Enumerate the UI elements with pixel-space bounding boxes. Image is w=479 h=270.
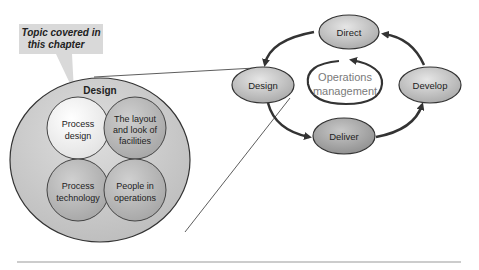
svg-text:technology: technology bbox=[56, 193, 100, 203]
svg-text:The layout: The layout bbox=[114, 114, 157, 124]
arrow-design-to-deliver bbox=[268, 103, 309, 137]
design-detail-title: Design bbox=[83, 85, 116, 96]
quadrant-layout-facilities: The layout and look of facilities bbox=[104, 97, 166, 159]
arrow-develop-to-direct bbox=[384, 34, 424, 65]
design-detail-circle: Design Process design The layout and loo… bbox=[10, 78, 190, 242]
svg-text:Deliver: Deliver bbox=[329, 131, 359, 142]
quadrant-people-operations: People in operations bbox=[104, 159, 166, 221]
zoom-connector-top bbox=[94, 68, 255, 77]
node-develop: Develop bbox=[399, 67, 461, 103]
quadrant-process-technology: Process technology bbox=[47, 159, 109, 221]
svg-text:Design: Design bbox=[248, 80, 278, 91]
svg-text:Process: Process bbox=[62, 181, 95, 191]
arrow-direct-to-design bbox=[265, 32, 314, 64]
svg-text:People in: People in bbox=[116, 181, 154, 191]
svg-text:Process: Process bbox=[62, 119, 95, 129]
arrow-deliver-to-develop bbox=[376, 105, 422, 137]
svg-text:Direct: Direct bbox=[337, 27, 362, 38]
svg-text:operations: operations bbox=[114, 193, 157, 203]
svg-text:Develop: Develop bbox=[413, 80, 448, 91]
callout-line1: Topic covered in bbox=[21, 27, 100, 38]
operations-diagram: Topic covered in this chapter Design Pro… bbox=[0, 0, 479, 270]
node-direct: Direct bbox=[319, 15, 379, 49]
svg-text:design: design bbox=[65, 131, 92, 141]
center-label-line1: Operations bbox=[318, 71, 372, 83]
svg-text:facilities: facilities bbox=[119, 136, 152, 146]
node-design: Design bbox=[232, 67, 294, 103]
center-label-line2: management bbox=[313, 85, 377, 97]
callout-line2: this chapter bbox=[28, 39, 86, 50]
quadrant-process-design: Process design bbox=[47, 97, 109, 159]
node-deliver: Deliver bbox=[313, 118, 375, 154]
svg-text:and look of: and look of bbox=[113, 125, 158, 135]
